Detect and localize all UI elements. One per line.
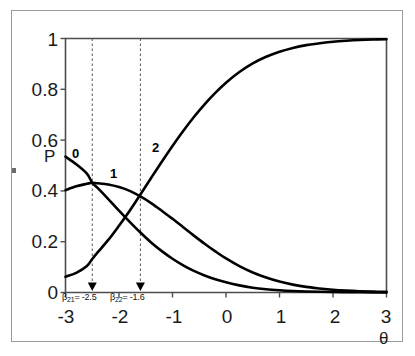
x-tick-label--2: -2 — [106, 307, 134, 326]
x-tick-label-2: 2 — [321, 307, 349, 326]
curve-label-1: 1 — [110, 167, 117, 180]
curve-series-1 — [66, 183, 387, 292]
y-tick-label-0-8: 0.8 — [10, 80, 58, 99]
annotation-beta-subscript-22: 22 — [115, 296, 122, 303]
y-tick-label-0: 0 — [24, 283, 58, 302]
threshold-arrow-beta-22 — [136, 283, 145, 292]
curve-label-0: 0 — [72, 147, 79, 160]
category-response-curves-plot — [0, 0, 415, 356]
y-axis-label: P — [44, 148, 55, 165]
x-tick-label--3: -3 — [52, 307, 80, 326]
x-tick-label--1: -1 — [160, 307, 188, 326]
y-tick-label-0-4: 0.4 — [10, 181, 58, 200]
x-axis-label: θ — [379, 330, 388, 347]
annotation-label-beta-22: β22= -1.6 — [110, 293, 144, 302]
y-tick-label-0-2: 0.2 — [10, 232, 58, 251]
x-tick-label-1: 1 — [267, 307, 295, 326]
chart-figure: 1 0.8 0.6 0.4 0.2 0 P -3 -2 -1 0 1 2 3 θ… — [0, 0, 415, 356]
annotation-label-beta-21: β21= -2.5 — [62, 293, 96, 302]
x-tick-label-0: 0 — [213, 307, 241, 326]
y-tick-label-1: 1 — [24, 30, 58, 49]
annotation-beta-value-22: = -1.6 — [122, 292, 144, 302]
annotation-beta-value-21: = -2.5 — [74, 292, 96, 302]
curve-label-2: 2 — [152, 141, 159, 154]
curve-series-2 — [66, 39, 387, 277]
x-tick-label-3: 3 — [372, 307, 400, 326]
annotation-beta-subscript-21: 21 — [67, 296, 74, 303]
threshold-arrow-beta-21 — [88, 283, 97, 292]
